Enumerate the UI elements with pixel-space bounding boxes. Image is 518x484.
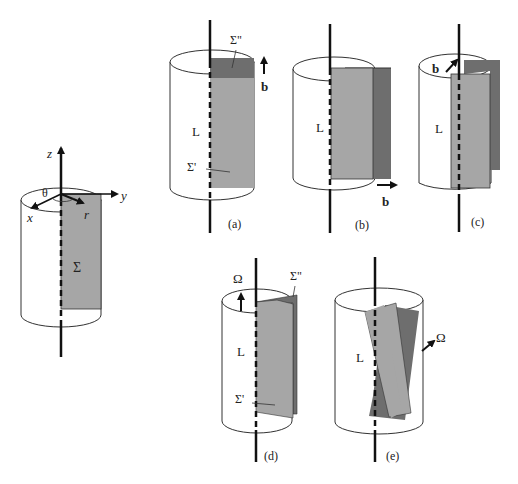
omega-label: Ω	[436, 330, 446, 345]
volterra-dislocation-diagram: z y x r θ Σ Σ" b L Σ' (a) L b (b)	[0, 0, 518, 484]
panel-caption-e: (e)	[386, 449, 399, 463]
panel-c: b L (c)	[419, 24, 500, 232]
main-cylinder-figure: z y x r θ Σ	[21, 146, 127, 357]
sigma-label: Σ	[73, 260, 81, 275]
b-label: b	[382, 194, 389, 209]
sigma-prime-sheet	[210, 78, 254, 188]
z-label: z	[46, 146, 52, 161]
panel-a: Σ" b L Σ' (a)	[170, 20, 268, 233]
panel-caption-d: (d)	[264, 449, 278, 463]
panel-caption-a: (a)	[228, 217, 241, 231]
line-label: L	[237, 344, 245, 359]
b-label: b	[261, 79, 268, 94]
sigma-prime-label: Σ'	[235, 392, 244, 406]
dark-sheet	[373, 68, 391, 179]
sigma-double-prime-label: Σ"	[230, 33, 242, 47]
omega-vector	[422, 341, 434, 351]
panel-b: L b (b)	[293, 24, 396, 233]
x-label: x	[26, 210, 33, 225]
sigma-sheet	[61, 194, 101, 309]
light-sheet	[331, 68, 373, 179]
line-label: L	[356, 350, 364, 365]
panel-caption-b: (b)	[355, 218, 369, 232]
panel-caption-c: (c)	[471, 215, 484, 229]
light-sheet	[451, 74, 490, 188]
sigma-prime-label: Σ'	[187, 160, 196, 174]
omega-label: Ω	[233, 271, 243, 286]
theta-label: θ	[42, 186, 48, 200]
sigma-double-prime-label: Σ"	[290, 269, 302, 283]
panel-d: Ω Σ" L Σ' (d)	[222, 258, 302, 463]
line-label: L	[316, 120, 324, 135]
panel-e: Ω L (e)	[335, 257, 446, 463]
y-label: y	[119, 188, 127, 203]
sigma-prime-sheet	[256, 300, 293, 418]
line-label: L	[192, 124, 200, 139]
line-label: L	[435, 121, 443, 136]
b-label: b	[432, 61, 439, 76]
